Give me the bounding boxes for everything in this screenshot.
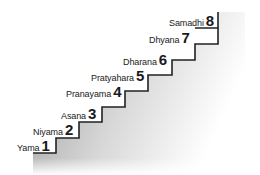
step-label-pratyahara: Pratyahara5 xyxy=(91,68,144,84)
step-number: 3 xyxy=(88,105,96,122)
step-number: 4 xyxy=(113,83,121,100)
step-number: 8 xyxy=(206,12,214,29)
step-label-pranayama: Pranayama4 xyxy=(66,84,121,100)
stair-shadow xyxy=(33,12,245,175)
step-name: Dhyana xyxy=(149,35,179,45)
step-label-niyama: Niyama2 xyxy=(33,122,73,138)
step-name: Niyama xyxy=(33,127,63,137)
step-number: 5 xyxy=(136,67,144,84)
staircase-diagram: Yama1 Niyama2 Asana3 Pranayama4 Pratyaha… xyxy=(0,0,260,175)
step-name: Dharana xyxy=(123,57,157,67)
step-name: Asana xyxy=(61,111,86,121)
step-label-samadhi: Samadhi8 xyxy=(169,13,214,29)
step-name: Pranayama xyxy=(66,89,111,99)
step-name: Samadhi xyxy=(169,18,204,28)
step-number: 1 xyxy=(41,137,49,154)
step-name: Pratyahara xyxy=(91,73,134,83)
step-label-yama: Yama1 xyxy=(17,138,50,154)
step-number: 6 xyxy=(159,51,167,68)
step-label-asana: Asana3 xyxy=(61,106,96,122)
step-number: 7 xyxy=(181,29,189,46)
step-label-dharana: Dharana6 xyxy=(123,52,167,68)
step-label-dhyana: Dhyana7 xyxy=(149,30,190,46)
step-number: 2 xyxy=(65,121,73,138)
step-name: Yama xyxy=(17,143,39,153)
